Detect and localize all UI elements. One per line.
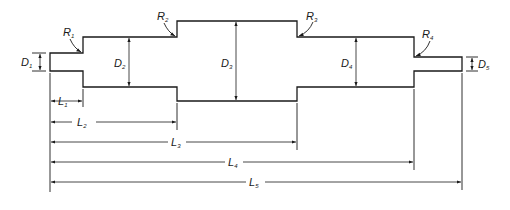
label-r3: R3 — [306, 10, 318, 23]
r4-leader — [416, 41, 430, 56]
label-r2: R2 — [157, 10, 169, 23]
label-l5: L5 — [249, 176, 259, 189]
label-l4: L4 — [228, 156, 238, 169]
stepped-shaft-diagram: D1 D2 D3 D4 D5 R1 R2 R3 R4 L1 L2 L3 L4 L… — [0, 0, 510, 210]
radius-leaders — [70, 22, 430, 56]
label-d3: D3 — [221, 57, 233, 70]
extension-lines — [32, 53, 478, 192]
shaft-outline — [50, 21, 462, 101]
r1-leader — [70, 39, 81, 52]
r3-leader — [299, 22, 313, 36]
label-d4: D4 — [341, 57, 353, 70]
label-l1: L1 — [58, 95, 67, 108]
label-l3: L3 — [171, 136, 181, 149]
label-r4: R4 — [422, 28, 434, 41]
label-l2: L2 — [77, 116, 87, 129]
label-d5: D5 — [478, 58, 490, 71]
label-d1: D1 — [21, 56, 32, 69]
length-dimensions — [51, 101, 461, 182]
diameter-dimensions — [40, 22, 472, 100]
label-r1: R1 — [63, 26, 74, 39]
r2-leader — [164, 23, 175, 36]
label-d2: D2 — [114, 57, 126, 70]
